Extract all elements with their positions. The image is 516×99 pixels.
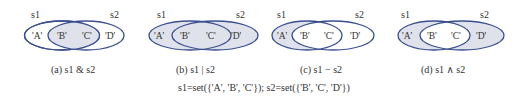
set-label-s1: s1 bbox=[31, 9, 40, 20]
element-C: 'C' bbox=[206, 31, 216, 41]
element-C: 'C' bbox=[82, 31, 92, 41]
venn-diagram-figure: s1 s2 'A' 'B' 'C' 'D' (a) s1 & s2 s1 s2 … bbox=[0, 0, 516, 99]
set-definition-formula: s1=set({'A', 'B', 'C'}); s2=set({'B', 'C… bbox=[178, 82, 350, 94]
panel-d-symmetric-difference: s1 s2 'A' 'B' 'C' 'D' (d) s1 ∧ s2 bbox=[398, 9, 504, 76]
element-D: 'D' bbox=[231, 31, 242, 41]
element-A: 'A' bbox=[154, 31, 165, 41]
element-D: 'D' bbox=[105, 31, 116, 41]
caption-a: (a) s1 & s2 bbox=[51, 64, 95, 76]
set-label-s1: s1 bbox=[157, 9, 166, 20]
element-B: 'B' bbox=[180, 31, 190, 41]
caption-b: (b) s1 | s2 bbox=[176, 64, 215, 76]
element-B: 'B' bbox=[427, 31, 437, 41]
element-A: 'A' bbox=[32, 31, 43, 41]
panel-b-union: s1 s2 'A' 'B' 'C' 'D' (b) s1 | s2 bbox=[149, 9, 258, 76]
element-A: 'A' bbox=[277, 31, 288, 41]
element-C: 'C' bbox=[451, 31, 461, 41]
set-label-s1: s1 bbox=[401, 9, 410, 20]
element-B: 'B' bbox=[57, 31, 67, 41]
panel-a-intersection: s1 s2 'A' 'B' 'C' 'D' (a) s1 & s2 bbox=[25, 9, 125, 76]
element-B: 'B' bbox=[300, 31, 310, 41]
set-label-s2: s2 bbox=[236, 9, 245, 20]
set-label-s2: s2 bbox=[355, 9, 364, 20]
element-D: 'D' bbox=[350, 31, 361, 41]
set-label-s2: s2 bbox=[480, 9, 489, 20]
panel-c-difference: s1 s2 'A' 'B' 'C' 'D' (c) s1 − s2 bbox=[272, 9, 374, 76]
set-label-s2: s2 bbox=[110, 9, 119, 20]
set-label-s1: s1 bbox=[277, 9, 286, 20]
caption-d: (d) s1 ∧ s2 bbox=[421, 64, 465, 76]
element-A: 'A' bbox=[402, 31, 413, 41]
caption-c: (c) s1 − s2 bbox=[300, 64, 342, 76]
element-D: 'D' bbox=[476, 31, 487, 41]
element-C: 'C' bbox=[324, 31, 334, 41]
